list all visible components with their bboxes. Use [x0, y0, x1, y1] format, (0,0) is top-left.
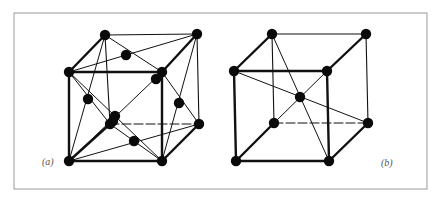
panel-a-label: (a): [42, 156, 54, 167]
panel-b-label: (b): [381, 157, 393, 168]
atom-dot: [363, 118, 373, 128]
diagonal-line: [162, 72, 199, 124]
atom-dot: [324, 156, 334, 166]
front-edge: [327, 34, 366, 71]
atom-dot: [231, 156, 241, 166]
front-edge: [234, 71, 236, 161]
back-edge: [272, 34, 274, 123]
back-edge: [105, 34, 197, 35]
atom-dot: [100, 30, 110, 40]
atom-dot: [192, 29, 202, 39]
atom-dot: [361, 29, 371, 39]
panel-b-bcc-cell: [229, 29, 373, 166]
atom-dot: [295, 92, 305, 102]
front-edge: [236, 123, 274, 161]
atom-dot: [157, 156, 167, 166]
atom-dot: [151, 74, 161, 84]
front-edge: [327, 71, 329, 161]
atom-dot: [194, 119, 204, 129]
front-edge: [234, 34, 272, 71]
atom-dot: [322, 66, 332, 76]
atom-dot: [267, 29, 277, 39]
back-edge: [105, 35, 110, 124]
atom-dot: [129, 136, 139, 146]
atom-dot: [64, 67, 74, 77]
back-edge: [197, 34, 199, 124]
atom-dot: [83, 94, 93, 104]
diagonal-line: [105, 35, 162, 72]
figure-frame: [14, 13, 427, 189]
atom-dot: [229, 66, 239, 76]
crystal-lattice-figure: [0, 0, 441, 202]
panel-a-fcc-cell: [64, 29, 204, 166]
front-edge: [329, 123, 368, 161]
atom-dot: [108, 116, 118, 126]
atom-dot: [174, 98, 184, 108]
atom-dot: [64, 156, 74, 166]
back-edge: [366, 34, 368, 123]
atom-dot: [121, 50, 131, 60]
atom-dot: [269, 118, 279, 128]
